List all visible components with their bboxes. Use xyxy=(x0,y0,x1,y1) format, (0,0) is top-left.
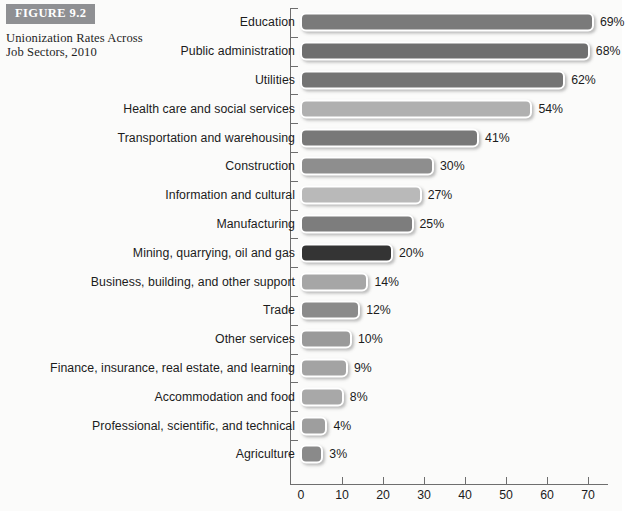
category-label: Construction xyxy=(225,159,295,173)
category-label: Transportation and warehousing xyxy=(118,131,295,145)
bar-row: Accommodation and food8% xyxy=(0,382,622,411)
bar xyxy=(300,445,323,464)
bar-row: Public administration68% xyxy=(0,37,622,66)
bar-wrapper xyxy=(300,157,434,176)
bar-wrapper xyxy=(300,358,348,377)
y-axis-tick xyxy=(290,382,298,383)
bar-row: Construction30% xyxy=(0,152,622,181)
y-axis-tick xyxy=(290,354,298,355)
category-label: Business, building, and other support xyxy=(91,275,295,289)
bar-wrapper xyxy=(300,13,594,32)
x-axis-tick-label: 20 xyxy=(376,488,390,502)
category-label: Agriculture xyxy=(236,447,295,461)
y-axis-tick xyxy=(290,8,298,9)
bar xyxy=(300,243,393,262)
y-axis-tick xyxy=(290,94,298,95)
bar xyxy=(300,272,368,291)
category-label: Professional, scientific, and technical xyxy=(92,419,295,433)
bar-value-label: 12% xyxy=(366,303,391,317)
bar-row: Agriculture3% xyxy=(0,440,622,469)
x-axis-tick-label: 40 xyxy=(458,488,472,502)
bar-value-label: 8% xyxy=(350,390,368,404)
bar xyxy=(300,42,590,61)
y-axis-tick xyxy=(290,181,298,182)
bar xyxy=(300,157,434,176)
bar-wrapper xyxy=(300,128,479,147)
bar-value-label: 54% xyxy=(538,102,563,116)
bar-row: Manufacturing25% xyxy=(0,210,622,239)
bar-row: Education69% xyxy=(0,8,622,37)
x-axis-tick-label: 60 xyxy=(540,488,554,502)
bar-value-label: 68% xyxy=(596,44,621,58)
x-axis-tick xyxy=(424,477,425,484)
x-axis-tick xyxy=(465,477,466,484)
x-axis-tick-label: 50 xyxy=(499,488,513,502)
x-axis-tick xyxy=(547,477,548,484)
bar xyxy=(300,186,422,205)
bar-value-label: 30% xyxy=(440,159,465,173)
bar-value-label: 41% xyxy=(485,131,510,145)
y-axis-tick xyxy=(290,411,298,412)
bar-wrapper xyxy=(300,387,344,406)
bar-wrapper xyxy=(300,42,590,61)
category-label: Mining, quarrying, oil and gas xyxy=(133,246,295,260)
y-axis-tick xyxy=(290,325,298,326)
category-label: Public administration xyxy=(180,44,295,58)
x-axis-tick-label: 0 xyxy=(298,488,305,502)
category-label: Education xyxy=(240,15,295,29)
bar xyxy=(300,358,348,377)
bar xyxy=(300,13,594,32)
bar-row: Business, building, and other support14% xyxy=(0,267,622,296)
bar-wrapper xyxy=(300,272,368,291)
bar-wrapper xyxy=(300,70,565,89)
bar xyxy=(300,70,565,89)
category-label: Accommodation and food xyxy=(154,390,295,404)
x-axis-tick xyxy=(383,477,384,484)
category-label: Manufacturing xyxy=(216,217,295,231)
x-axis-tick xyxy=(342,477,343,484)
bar-value-label: 10% xyxy=(358,332,383,346)
bar-row: Transportation and warehousing41% xyxy=(0,123,622,152)
bar xyxy=(300,301,360,320)
bar-row: Utilities62% xyxy=(0,66,622,95)
bar-row: Other services10% xyxy=(0,325,622,354)
bar-row: Professional, scientific, and technical4… xyxy=(0,411,622,440)
bar-value-label: 69% xyxy=(600,15,625,29)
category-label: Utilities xyxy=(255,73,295,87)
bar xyxy=(300,128,479,147)
x-axis-line xyxy=(290,484,608,485)
x-axis-tick-label: 70 xyxy=(581,488,595,502)
bar-wrapper xyxy=(300,301,360,320)
y-axis-tick xyxy=(290,440,298,441)
x-axis-tick-label: 30 xyxy=(417,488,431,502)
y-axis-tick xyxy=(290,37,298,38)
category-label: Other services xyxy=(215,332,295,346)
bar xyxy=(300,214,414,233)
bar-value-label: 4% xyxy=(333,419,351,433)
bar-value-label: 27% xyxy=(428,188,453,202)
bar-wrapper xyxy=(300,330,352,349)
bar-value-label: 9% xyxy=(354,361,372,375)
bar-row: Information and cultural27% xyxy=(0,181,622,210)
bar-wrapper xyxy=(300,214,414,233)
x-axis-tick xyxy=(506,477,507,484)
y-axis-tick xyxy=(290,66,298,67)
bar-wrapper xyxy=(300,186,422,205)
category-label: Trade xyxy=(263,303,295,317)
category-label: Finance, insurance, real estate, and lea… xyxy=(50,361,295,375)
bar-row: Finance, insurance, real estate, and lea… xyxy=(0,354,622,383)
bar-row: Health care and social services54% xyxy=(0,94,622,123)
category-label: Health care and social services xyxy=(123,102,295,116)
y-axis-tick xyxy=(290,296,298,297)
y-axis-tick xyxy=(290,267,298,268)
bar xyxy=(300,99,532,118)
y-axis-tick xyxy=(290,238,298,239)
bar-wrapper xyxy=(300,416,327,435)
bar-wrapper xyxy=(300,243,393,262)
bar-value-label: 25% xyxy=(420,217,445,231)
bar-wrapper xyxy=(300,445,323,464)
y-axis-tick xyxy=(290,123,298,124)
bar-value-label: 3% xyxy=(329,447,347,461)
